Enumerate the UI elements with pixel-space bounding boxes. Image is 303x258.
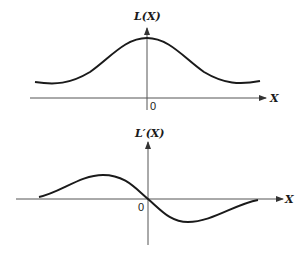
top-x-label: X xyxy=(269,92,279,105)
bottom-y-label: L′(X) xyxy=(134,127,165,140)
top-plot: L(X) X 0 xyxy=(30,10,279,112)
top-origin-label: 0 xyxy=(150,100,156,112)
diagram-canvas: L(X) X 0 L′(X) X 0 xyxy=(0,0,303,258)
top-y-label: L(X) xyxy=(133,10,161,23)
bottom-plot: L′(X) X 0 xyxy=(16,127,294,245)
bottom-origin-label: 0 xyxy=(138,201,144,213)
bottom-x-label: X xyxy=(284,193,294,206)
